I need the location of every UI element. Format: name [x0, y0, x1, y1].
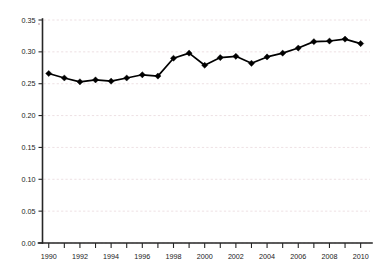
y-axis-tick-label: 0.10: [22, 175, 36, 184]
x-axis-tick-label: 1994: [103, 252, 119, 261]
y-axis-tick-label: 0.05: [22, 207, 36, 216]
x-axis-tick-label: 2010: [353, 252, 369, 261]
x-axis-tick-label: 2004: [259, 252, 275, 261]
x-axis-tick-label: 2000: [197, 252, 213, 261]
y-axis-tick-label: 0.30: [22, 47, 36, 56]
y-axis-tick-label: 0.20: [22, 111, 36, 120]
x-axis-tick-label: 1992: [72, 252, 88, 261]
x-axis-tick-label: 2006: [290, 252, 306, 261]
x-axis-tick-label: 1990: [41, 252, 57, 261]
chart-canvas: 0.000.050.100.150.200.250.300.35 1990199…: [0, 0, 384, 276]
line-chart: 0.000.050.100.150.200.250.300.35 1990199…: [0, 0, 384, 276]
x-axis-tick-label: 1996: [134, 252, 150, 261]
x-axis-tick-label: 2002: [228, 252, 244, 261]
y-axis-tick-label: 0.25: [22, 79, 36, 88]
x-axis-tick-label: 2008: [321, 252, 337, 261]
x-axis-tick-label: 1998: [166, 252, 182, 261]
y-axis-tick-label: 0.15: [22, 143, 36, 152]
scan-artifact-speck: [38, 23, 40, 25]
y-axis-tick-label: 0.00: [22, 239, 36, 248]
y-axis-tick-label: 0.35: [22, 16, 36, 25]
